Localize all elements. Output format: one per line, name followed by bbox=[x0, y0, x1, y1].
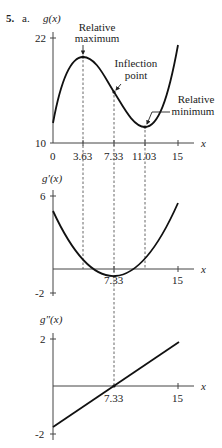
x-tick-label-0: 0 bbox=[50, 150, 56, 162]
annotation-relative-maximum-line2: maximum bbox=[75, 32, 120, 44]
y-tick-label-neg2: -2 bbox=[35, 287, 44, 299]
y-axis-label-g-prime: g′(x) bbox=[42, 172, 62, 185]
problem-number: 5. bbox=[6, 12, 15, 24]
x-tick-label-15: 15 bbox=[172, 274, 184, 286]
y-axis-label-g-double-prime: g″(x) bbox=[40, 313, 63, 326]
y-tick-label-10: 10 bbox=[35, 137, 47, 149]
y-tick-label-22: 22 bbox=[35, 32, 46, 44]
y-tick-label-6: 6 bbox=[40, 190, 46, 202]
annotation-inflection-line1: Inflection bbox=[115, 57, 158, 69]
x-tick-label-7.33: 7.33 bbox=[104, 392, 124, 404]
x-axis-label: x bbox=[200, 137, 206, 149]
chart-g-prime: g′(x) 6 -2 x 7.33 15 bbox=[35, 172, 206, 299]
annotation-inflection-line2: point bbox=[125, 69, 148, 81]
chart-g-double-prime: g″(x) 2 -2 x 7.33 15 bbox=[35, 313, 206, 440]
figure: 5. a. g(x) 22 10 x 0 3.63 7.33 11.03 15 … bbox=[0, 0, 222, 448]
arrow-icon bbox=[116, 84, 121, 90]
x-tick-label-15: 15 bbox=[172, 150, 184, 162]
chart-g: g(x) 22 10 x 0 3.63 7.33 11.03 15 Relati… bbox=[35, 12, 215, 162]
y-tick-label-2: 2 bbox=[40, 333, 46, 345]
x-axis-label: x bbox=[200, 380, 206, 392]
problem-part: a. bbox=[22, 12, 30, 24]
annotation-relative-minimum-line2: minimum bbox=[172, 105, 215, 117]
annotation-relative-minimum-line1: Relative bbox=[178, 93, 215, 105]
y-axis-label-g: g(x) bbox=[43, 12, 61, 25]
x-tick-label-11.03: 11.03 bbox=[132, 150, 157, 162]
curve-g-double-prime bbox=[53, 342, 179, 427]
curve-g-prime bbox=[53, 203, 178, 276]
x-axis-label: x bbox=[200, 263, 206, 275]
x-tick-label-15: 15 bbox=[172, 392, 184, 404]
y-tick-label-neg2: -2 bbox=[35, 428, 44, 440]
